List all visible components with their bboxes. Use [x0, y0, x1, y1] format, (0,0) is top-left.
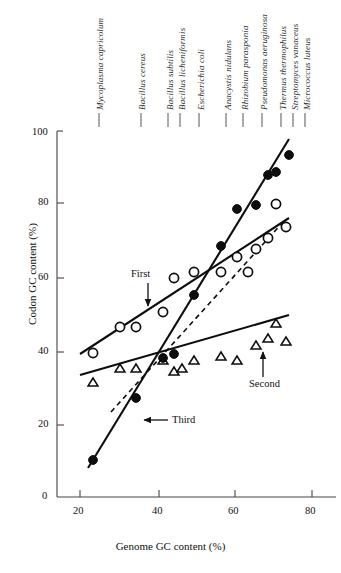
point-first — [189, 267, 198, 276]
point-first — [271, 199, 280, 208]
point-second — [131, 364, 141, 372]
point-third — [170, 350, 179, 359]
point-first — [169, 273, 178, 282]
species-tick-marks — [99, 113, 305, 127]
point-third — [285, 151, 294, 160]
point-first — [216, 267, 225, 276]
point-third — [132, 394, 141, 403]
point-third — [252, 201, 261, 210]
axis-lines — [57, 131, 336, 497]
y-axis-ticks — [57, 203, 64, 425]
point-second — [88, 378, 98, 386]
chart-canvas: Mycoplasma capricolum Bacillus cereus Ba… — [0, 0, 341, 573]
point-first — [243, 267, 252, 276]
point-third — [159, 354, 168, 363]
point-second — [281, 337, 291, 345]
point-second — [232, 356, 242, 364]
point-third — [264, 171, 273, 180]
point-second — [263, 334, 273, 342]
point-third — [233, 205, 242, 214]
point-third — [190, 291, 199, 300]
point-second — [251, 341, 261, 349]
trend-line-first — [80, 218, 289, 354]
point-first — [251, 244, 260, 253]
point-first — [131, 322, 140, 331]
point-first — [281, 222, 290, 231]
series-first-codon-position — [88, 199, 290, 357]
point-first — [158, 307, 167, 316]
point-third — [217, 242, 226, 251]
point-second — [216, 352, 226, 360]
trend-line-third — [88, 139, 289, 468]
point-first — [263, 233, 272, 242]
point-second — [189, 356, 199, 364]
plot-svg — [0, 0, 341, 573]
point-first — [88, 348, 97, 357]
point-third — [272, 168, 281, 177]
point-third — [89, 456, 98, 465]
x-axis-ticks — [80, 490, 312, 497]
point-first — [232, 252, 241, 261]
point-first — [115, 322, 124, 331]
point-second — [177, 364, 187, 372]
